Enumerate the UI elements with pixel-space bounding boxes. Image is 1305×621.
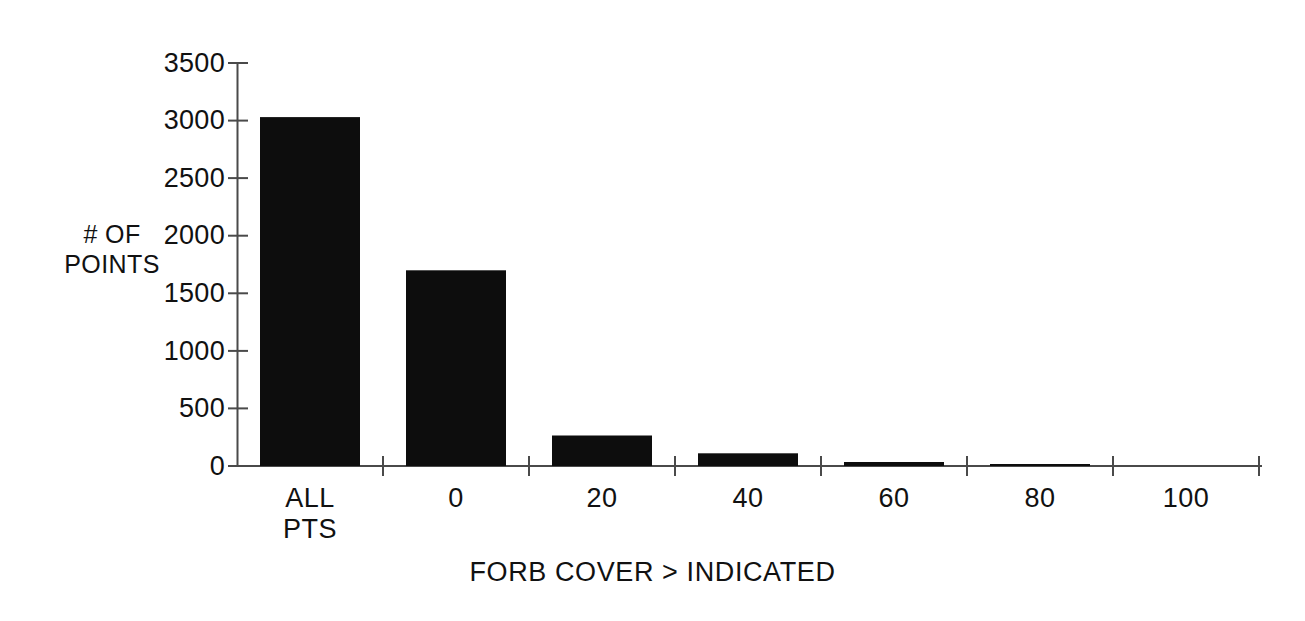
x-tick-label-80: 80	[967, 483, 1113, 514]
bar-40	[698, 453, 798, 466]
x-tick-label-all-pts: ALL PTS	[237, 483, 383, 545]
x-axis-title: FORB COVER > INDICATED	[0, 557, 1305, 588]
bar-all-pts	[260, 117, 360, 466]
x-tick-label-100: 100	[1113, 483, 1259, 514]
bar-20	[552, 436, 652, 467]
bar-series	[260, 117, 1090, 466]
bar-80	[990, 464, 1090, 466]
x-tick-label-40: 40	[675, 483, 821, 514]
bar-60	[844, 462, 944, 466]
bar-0	[406, 270, 506, 466]
x-tick-label-60: 60	[821, 483, 967, 514]
bar-chart: # OF POINTS 3500 3000 2500 2000 1500 100…	[0, 0, 1305, 621]
plot-area	[0, 0, 1305, 621]
x-tick-label-20: 20	[529, 483, 675, 514]
x-tick-label-0: 0	[383, 483, 529, 514]
